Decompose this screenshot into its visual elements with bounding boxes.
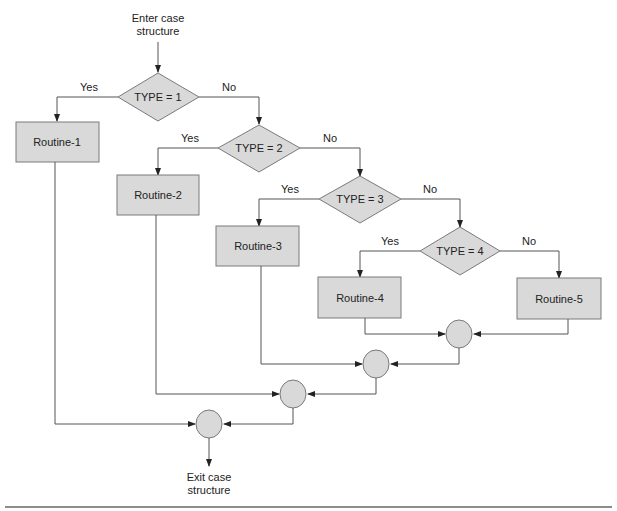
decision-1-no-label: No	[222, 81, 236, 93]
decision-4-no-arrow	[500, 251, 559, 278]
case-structure-flowchart: Enter case structure TYPE = 1 Yes No Rou…	[0, 0, 617, 511]
decision-type-4: TYPE = 4	[420, 227, 500, 275]
entry-label-line1: Enter case	[132, 12, 185, 24]
decision-3-no-arrow	[401, 199, 460, 227]
decision-3-yes-arrow	[259, 199, 319, 226]
decision-2-label: TYPE = 2	[235, 142, 282, 154]
decision-4-label: TYPE = 4	[436, 245, 483, 257]
decision-4-no-label: No	[522, 235, 536, 247]
decision-4-yes-arrow	[360, 251, 420, 277]
routine-3-box: Routine-3	[216, 226, 299, 266]
connector-b	[363, 350, 389, 378]
routine-5-label: Routine-5	[535, 293, 583, 305]
routine-4-box: Routine-4	[318, 277, 401, 318]
routine-4-to-connector-a	[365, 318, 445, 334]
decision-3-no-label: No	[423, 183, 437, 195]
exit-label-line2: structure	[188, 484, 231, 496]
connector-d	[196, 410, 222, 438]
routine-1-label: Routine-1	[33, 136, 81, 148]
decision-2-no-label: No	[323, 132, 337, 144]
exit-label-line1: Exit case	[187, 471, 232, 483]
connector-b-to-connector-c	[308, 378, 376, 394]
routine-1-box: Routine-1	[16, 122, 99, 162]
entry-label-line2: structure	[137, 25, 180, 37]
connector-c-to-connector-d	[224, 408, 293, 424]
decision-1-yes-arrow	[57, 97, 118, 121]
connector-c	[280, 380, 306, 408]
routine-5-to-connector-a	[474, 319, 568, 334]
decision-2-yes-label: Yes	[181, 132, 199, 144]
decision-1-yes-label: Yes	[80, 81, 98, 93]
routine-4-label: Routine-4	[336, 292, 384, 304]
routine-2-box: Routine-2	[117, 175, 199, 215]
decision-type-3: TYPE = 3	[319, 176, 401, 223]
decision-3-label: TYPE = 3	[336, 193, 383, 205]
decision-1-no-arrow	[199, 97, 259, 124]
decision-2-yes-arrow	[158, 148, 218, 175]
decision-1-label: TYPE = 1	[134, 91, 181, 103]
connector-a-to-connector-b	[391, 348, 459, 364]
routine-3-label: Routine-3	[234, 240, 282, 252]
decision-2-no-arrow	[300, 148, 360, 176]
connector-a	[446, 320, 472, 348]
routine-2-label: Routine-2	[134, 189, 182, 201]
decision-4-yes-label: Yes	[381, 235, 399, 247]
decision-3-yes-label: Yes	[281, 183, 299, 195]
routine-5-box: Routine-5	[517, 278, 601, 319]
decision-type-2: TYPE = 2	[218, 125, 300, 172]
decision-type-1: TYPE = 1	[118, 73, 199, 121]
